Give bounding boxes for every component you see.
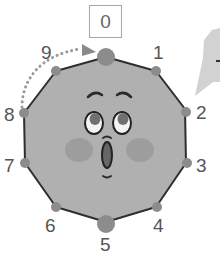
vertex-label-9: 9: [41, 42, 52, 63]
vertex-dot-9: [51, 66, 61, 76]
vertex-dot-3: [182, 158, 192, 168]
vertex-dot-2: [181, 107, 191, 117]
vertex-dot-5: [97, 215, 115, 233]
left-cheek: [65, 138, 93, 162]
vertex-dot-7: [20, 158, 30, 168]
arrow-head-icon: [82, 44, 96, 56]
speech-bubble: [195, 28, 220, 96]
decagon-face: [24, 57, 186, 222]
left-eye: [85, 112, 103, 134]
vertex-label-8: 8: [4, 104, 15, 125]
vertex-label-5: 5: [100, 234, 111, 255]
vertex-dot-6: [51, 202, 61, 212]
right-cheek: [126, 138, 154, 162]
vertex-dot-4: [152, 202, 162, 212]
vertex-label-2: 2: [196, 102, 207, 123]
vertex-label-7: 7: [4, 155, 15, 176]
vertex-label-6: 6: [45, 215, 56, 236]
vertex-label-1: 1: [153, 42, 164, 63]
vertex-dot-8: [19, 108, 29, 118]
vertex-dot-1: [151, 66, 161, 76]
vertex-dot-0: [97, 48, 115, 66]
vertex-label-3: 3: [196, 155, 207, 176]
mouth: [102, 142, 112, 168]
right-eye: [113, 112, 131, 134]
decagon-face-diagram: 1 2 3 4 5 6 7 8 9: [0, 0, 220, 257]
vertex-label-4: 4: [153, 215, 164, 236]
